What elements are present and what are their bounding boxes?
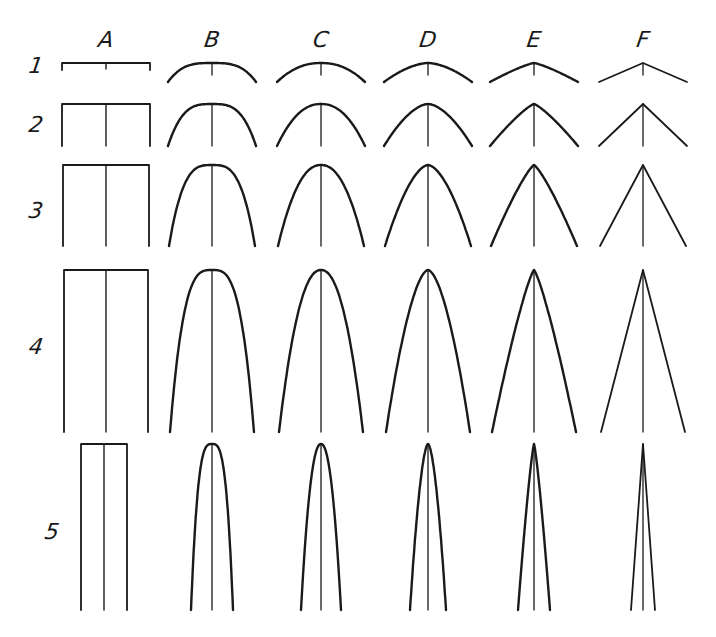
- column-label-e: E: [526, 29, 543, 51]
- profile-e5: [518, 444, 550, 610]
- profile-c4: [279, 270, 363, 432]
- profile-f2: [599, 104, 687, 146]
- profile-d5: [410, 444, 446, 610]
- profile-d4: [386, 270, 470, 432]
- column-label-b: B: [203, 29, 221, 51]
- profile-a3: [63, 165, 149, 246]
- profile-b2: [168, 104, 256, 146]
- profile-c5: [301, 444, 341, 610]
- profile-a5: [81, 444, 127, 610]
- profile-b5: [191, 444, 233, 610]
- profile-f4: [601, 270, 685, 432]
- profile-a2: [62, 104, 150, 146]
- profile-f3: [600, 165, 686, 246]
- profile-f5: [631, 444, 655, 610]
- profile-d1: [384, 63, 472, 82]
- nose-cone-profile-grid: [0, 0, 716, 637]
- profile-c1: [277, 63, 365, 82]
- profile-e1: [490, 63, 578, 82]
- profile-c3: [278, 165, 364, 246]
- profile-a1: [62, 63, 150, 70]
- profile-d3: [385, 165, 471, 246]
- profile-e2: [490, 104, 578, 146]
- profile-a4: [64, 270, 148, 432]
- column-label-f: F: [635, 29, 651, 51]
- column-label-a: A: [97, 29, 115, 51]
- column-label-d: D: [418, 29, 438, 51]
- profile-d2: [384, 104, 472, 146]
- profile-e4: [492, 270, 576, 432]
- profile-c2: [277, 104, 365, 146]
- profile-f1: [599, 63, 687, 82]
- profile-b3: [169, 165, 255, 246]
- profile-b1: [168, 63, 256, 82]
- profile-e3: [491, 165, 577, 246]
- profile-b4: [170, 270, 254, 432]
- column-label-c: C: [312, 29, 330, 51]
